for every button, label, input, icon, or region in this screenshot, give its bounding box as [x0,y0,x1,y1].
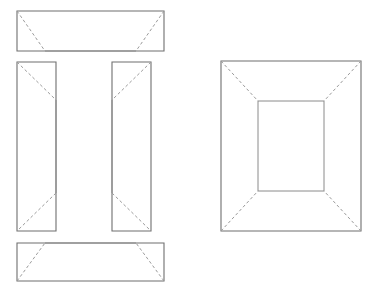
drawing-background [0,0,380,284]
technical-drawing-canvas [0,0,380,284]
